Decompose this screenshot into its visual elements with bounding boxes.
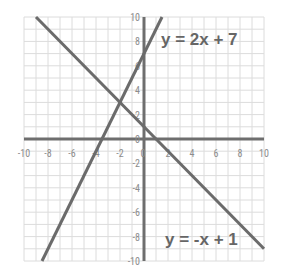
y-tick-label: -8 — [133, 232, 140, 243]
x-tick-label: -6 — [68, 148, 75, 159]
equation-label-line1: y = 2x + 7 — [161, 30, 238, 49]
y-tick-label: -4 — [133, 183, 140, 194]
y-tick-label: 10 — [130, 12, 140, 23]
y-tick-label: 4 — [135, 85, 140, 96]
y-tick-label: -6 — [133, 207, 140, 218]
y-tick-label: 0 — [135, 134, 140, 145]
equation-label-line2: y = -x + 1 — [165, 230, 238, 249]
coordinate-plane-chart: -10-8-6-4-2246810-10-8-6-4-202468100 y =… — [0, 0, 283, 277]
x-tick-label: 6 — [214, 148, 219, 159]
x-tick-label: 10 — [259, 148, 269, 159]
x-tick-label: 8 — [238, 148, 243, 159]
y-tick-label: 8 — [135, 36, 140, 47]
origin-label: 0 — [141, 148, 146, 159]
y-tick-label: -2 — [133, 158, 140, 169]
x-tick-label: -10 — [18, 148, 30, 159]
x-tick-label: -2 — [116, 148, 123, 159]
x-tick-label: 4 — [190, 148, 195, 159]
y-tick-label: -10 — [128, 256, 140, 267]
plot-line-2 — [36, 17, 264, 249]
x-tick-label: -8 — [44, 148, 51, 159]
